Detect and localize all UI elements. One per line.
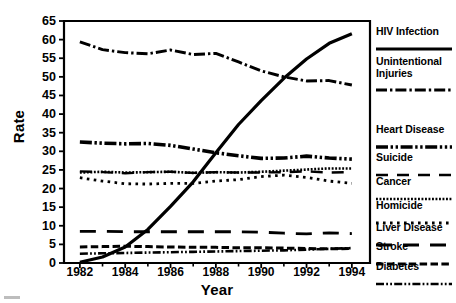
legend-label: Liver Disease (376, 222, 456, 234)
legend-swatch-solid (376, 46, 454, 52)
legend-swatch-dash-dot-dot-thin (376, 281, 454, 287)
legend-label: Stroke (376, 241, 456, 253)
series-unintentional-injuries (80, 42, 352, 85)
legend-item-heart-disease[interactable]: Heart Disease (376, 124, 456, 154)
series-liver-disease (80, 231, 352, 234)
series-suicide (80, 171, 352, 173)
legend-swatch-dash-dot-dot (376, 144, 454, 150)
scan-artifact (4, 296, 20, 299)
legend-item-unintentional-injuries[interactable]: Unintentional Injuries (376, 56, 456, 97)
legend-swatch-dash-dot (376, 87, 454, 93)
legend-label: HIV Infection (376, 26, 456, 38)
legend-label: Suicide (376, 152, 456, 164)
chart-figure: Rate Year 05101520253035404550556065 198… (0, 0, 456, 303)
series-homicide (80, 175, 352, 184)
legend-label: Homicide (376, 200, 456, 212)
legend-item-hiv-infection[interactable]: HIV Infection (376, 26, 456, 56)
legend-label: Cancer (376, 176, 456, 188)
legend-item-diabetes[interactable]: Diabetes (376, 261, 456, 291)
legend-label: Heart Disease (376, 124, 456, 136)
chart-legend: HIV InfectionUnintentional InjuriesHeart… (376, 0, 456, 303)
legend-label: Unintentional Injuries (376, 56, 456, 79)
series-hiv-infection (80, 34, 352, 263)
legend-label: Diabetes (376, 261, 456, 273)
